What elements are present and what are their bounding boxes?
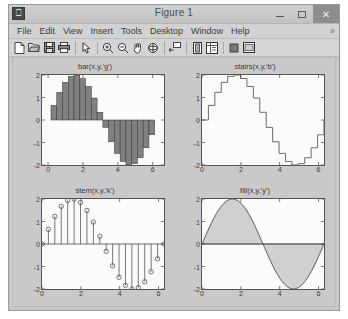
axes-fill[interactable]: -2-10120246 [201, 198, 325, 290]
x-tick-label: 4 [278, 166, 282, 173]
y-tick-label: -2 [34, 162, 40, 169]
axes-stem[interactable]: -2-10120246 [41, 198, 165, 290]
axes-stairs[interactable]: -2-10120246 [201, 74, 325, 166]
plot-area [202, 199, 324, 289]
x-tick-label: 6 [157, 290, 161, 297]
title-bar[interactable]: ⎕ Figure 1 ✕ [9, 5, 339, 24]
open-file-icon[interactable] [27, 41, 41, 55]
insert-legend-icon[interactable] [205, 41, 219, 55]
x-tick-label: 4 [116, 166, 120, 173]
y-tick-label: 1 [36, 218, 40, 225]
y-tick-label: 0 [196, 241, 200, 248]
plot-area [42, 75, 164, 165]
pan-icon[interactable] [131, 41, 145, 55]
minimize-button[interactable] [269, 5, 291, 23]
zoom-in-icon[interactable] [101, 41, 115, 55]
x-tick-label: 0 [46, 166, 50, 173]
window-controls: ✕ [269, 5, 339, 23]
plot-area [202, 75, 324, 165]
y-tick-label: 2 [36, 196, 40, 203]
x-tick-label: 4 [278, 290, 282, 297]
subplot-title: stem(x,y,'k') [19, 186, 171, 195]
figure-canvas[interactable]: bar(x,y,'g') -2-10120246 stairs(x,y,'b')… [12, 57, 336, 307]
menu-item-file[interactable]: File [13, 26, 36, 36]
y-tick-label: -1 [194, 263, 200, 270]
new-figure-icon[interactable] [12, 41, 26, 55]
x-tick-label: 0 [200, 290, 204, 297]
menu-item-desktop[interactable]: Desktop [146, 26, 187, 36]
y-tick-label: 0 [196, 117, 200, 124]
y-tick-label: 2 [196, 196, 200, 203]
toolbar-separator [75, 42, 76, 54]
menu-item-tools[interactable]: Tools [117, 26, 146, 36]
maximize-button[interactable] [291, 5, 313, 23]
y-tick-label: 1 [196, 94, 200, 101]
y-tick-label: 1 [36, 94, 40, 101]
x-tick-label: 6 [151, 166, 155, 173]
x-tick-label: 0 [40, 290, 44, 297]
menu-overflow-chevron-icon[interactable]: » [330, 26, 335, 36]
menu-item-window[interactable]: Window [187, 26, 227, 36]
show-plot-tools-icon[interactable] [242, 41, 256, 55]
y-tick-label: -1 [194, 139, 200, 146]
rotate-3d-icon[interactable] [146, 41, 160, 55]
maximize-icon [298, 11, 306, 18]
menu-item-view[interactable]: View [59, 26, 86, 36]
y-tick-label: 0 [36, 241, 40, 248]
y-tick-label: 2 [196, 72, 200, 79]
x-tick-label: 4 [118, 290, 122, 297]
minimize-icon [276, 16, 284, 17]
menu-item-edit[interactable]: Edit [36, 26, 60, 36]
x-tick-label: 2 [81, 166, 85, 173]
subplot-stem[interactable]: stem(x,y,'k') -2-10120246 [19, 186, 171, 304]
menu-item-insert[interactable]: Insert [86, 26, 117, 36]
figure-window: ⎕ Figure 1 ✕ File Edit View Insert Tools… [8, 4, 340, 311]
y-tick-label: -1 [34, 263, 40, 270]
zoom-out-icon[interactable] [116, 41, 130, 55]
subplot-title: fill(x,y,'y') [179, 186, 331, 195]
subplot-fill[interactable]: fill(x,y,'y') -2-10120246 [179, 186, 331, 304]
y-tick-label: 2 [36, 72, 40, 79]
tool-bar [9, 39, 339, 57]
print-figure-icon[interactable] [57, 41, 71, 55]
pointer-icon[interactable] [79, 41, 93, 55]
y-tick-label: 0 [36, 117, 40, 124]
x-tick-label: 2 [239, 290, 243, 297]
hide-plot-tools-icon[interactable] [227, 41, 241, 55]
subplot-bar[interactable]: bar(x,y,'g') -2-10120246 [19, 62, 171, 180]
plot-area [42, 199, 164, 289]
insert-colorbar-icon[interactable] [190, 41, 204, 55]
toolbar-separator [186, 42, 187, 54]
x-tick-label: 2 [79, 290, 83, 297]
x-tick-label: 6 [317, 290, 321, 297]
subplot-title: stairs(x,y,'b') [179, 62, 331, 71]
data-cursor-icon[interactable] [168, 41, 182, 55]
close-button[interactable]: ✕ [313, 5, 339, 23]
axes-bar[interactable]: -2-10120246 [41, 74, 165, 166]
subplot-stairs[interactable]: stairs(x,y,'b') -2-10120246 [179, 62, 331, 180]
toolbar-separator [223, 42, 224, 54]
x-tick-label: 6 [317, 166, 321, 173]
subplot-title: bar(x,y,'g') [19, 62, 171, 71]
menu-item-help[interactable]: Help [227, 26, 254, 36]
menu-bar: File Edit View Insert Tools Desktop Wind… [9, 24, 339, 39]
x-tick-label: 0 [200, 166, 204, 173]
save-figure-icon[interactable] [42, 41, 56, 55]
x-tick-label: 2 [239, 166, 243, 173]
toolbar-separator [97, 42, 98, 54]
toolbar-separator [164, 42, 165, 54]
y-tick-label: -1 [34, 139, 40, 146]
y-tick-label: 1 [196, 218, 200, 225]
